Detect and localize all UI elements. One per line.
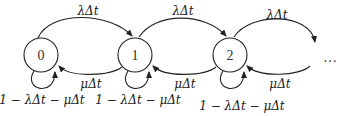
edge-forward-2-more <box>234 19 315 42</box>
label-self-loop-0: 1 − λΔt − μΔt <box>0 93 85 107</box>
self-loop-0 <box>31 71 55 89</box>
edge-forward-0-1 <box>38 18 132 39</box>
edge-backward-more-2 <box>247 66 310 74</box>
state-label-1: 1 <box>132 48 139 63</box>
self-loop-2 <box>220 71 244 89</box>
label-forward-2-more: λΔt <box>265 8 287 22</box>
label-backward-2-1: μΔt <box>174 77 195 91</box>
label-backward-more-2: μΔt <box>269 77 290 91</box>
self-loop-1 <box>125 71 149 89</box>
label-self-loop-1: 1 − λΔt − μΔt <box>95 93 181 107</box>
edge-forward-1-2 <box>139 18 226 37</box>
state-label-0: 0 <box>38 48 45 63</box>
label-forward-0-1: λΔt <box>76 4 98 18</box>
edge-backward-2-1 <box>153 66 216 74</box>
label-backward-1-0: μΔt <box>80 77 101 91</box>
label-self-loop-2: 1 − λΔt − μΔt <box>199 99 285 113</box>
label-forward-1-2: λΔt <box>171 4 193 18</box>
state-label-2: 2 <box>227 48 234 63</box>
edge-backward-1-0 <box>59 66 122 74</box>
markov-chain-diagram: 0 1 2 … λΔt λΔt λΔt μΔt μΔt μΔt 1 − λΔt … <box>0 0 351 116</box>
ellipsis: … <box>323 50 337 65</box>
